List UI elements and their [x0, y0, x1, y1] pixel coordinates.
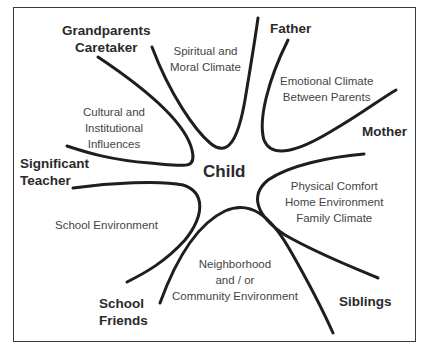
label-grandparents-caretaker: Grandparents Caretaker — [62, 22, 151, 56]
label-line: Community Environment — [172, 288, 298, 304]
label-line: Neighborhood — [172, 256, 298, 272]
label-line: Grandparents — [62, 22, 151, 39]
label-line: Teacher — [20, 172, 89, 189]
label-school-friends: School Friends — [99, 295, 148, 329]
label-significant-teacher: Significant Teacher — [20, 155, 89, 189]
label-line: Caretaker — [62, 39, 151, 56]
label-line: Emotional Climate — [280, 73, 373, 89]
label-line: and / or — [172, 272, 298, 288]
label-line: School — [99, 295, 148, 312]
label-school-environment: School Environment — [55, 217, 158, 233]
label-line: Physical Comfort — [285, 178, 383, 194]
label-line: Cultural and — [83, 104, 145, 120]
label-line: Mother — [362, 123, 407, 140]
label-father: Father — [270, 20, 311, 37]
label-line: Siblings — [339, 293, 392, 310]
label-line: Home Environment — [285, 194, 383, 210]
label-neighborhood-community: Neighborhood and / or Community Environm… — [172, 256, 298, 304]
center-label-child: Child — [203, 164, 246, 180]
label-spiritual-moral-climate: Spiritual and Moral Climate — [170, 43, 241, 75]
label-line: Spiritual and — [170, 43, 241, 59]
label-line: Institutional — [83, 120, 145, 136]
label-mother: Mother — [362, 123, 407, 140]
label-line: Significant — [20, 155, 89, 172]
label-line: Friends — [99, 312, 148, 329]
label-line: Influences — [83, 136, 145, 152]
label-line: Family Climate — [285, 210, 383, 226]
label-line: Father — [270, 20, 311, 37]
label-emotional-climate: Emotional Climate Between Parents — [280, 73, 373, 105]
label-cultural-institutional: Cultural and Institutional Influences — [83, 104, 145, 152]
label-line: Between Parents — [280, 89, 373, 105]
label-siblings: Siblings — [339, 293, 392, 310]
label-line: Moral Climate — [170, 59, 241, 75]
curve-grandparents-father — [152, 18, 258, 148]
label-line: School Environment — [55, 217, 158, 233]
label-physical-comfort: Physical Comfort Home Environment Family… — [285, 178, 383, 226]
